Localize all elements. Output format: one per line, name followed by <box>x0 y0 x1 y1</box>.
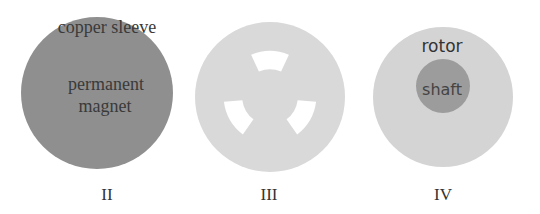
magnet-label-line2: magnet <box>79 96 132 116</box>
panel-ii: copper sleeve permanent magnet II <box>21 17 173 204</box>
caption-iv: IV <box>434 185 453 204</box>
rotor-cross-section-diagram: copper sleeve permanent magnet II III ro… <box>0 0 540 214</box>
copper-sleeve-label: copper sleeve <box>58 17 156 37</box>
shaft-label: shaft <box>422 80 462 99</box>
panel-iv: rotor shaft IV <box>373 27 513 204</box>
caption-ii: II <box>101 185 113 204</box>
rotor-label: rotor <box>421 36 462 56</box>
caption-iii: III <box>261 185 278 204</box>
permanent-label-line1: permanent <box>68 74 144 94</box>
panel-iii: III <box>195 22 345 204</box>
rotor-with-slots-circle <box>195 22 345 172</box>
